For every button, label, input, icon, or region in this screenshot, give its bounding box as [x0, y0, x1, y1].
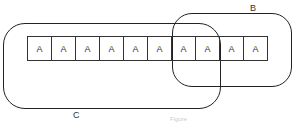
cell: A: [147, 36, 172, 61]
cell: A: [243, 36, 268, 61]
cell-row: A A A A A A A A A A: [27, 36, 268, 61]
cell: A: [51, 36, 76, 61]
figure-caption: Figure: [170, 116, 187, 122]
cell: A: [27, 36, 52, 61]
cell: A: [195, 36, 220, 61]
cell: A: [75, 36, 100, 61]
set-b-label: B: [250, 3, 256, 13]
cell: A: [219, 36, 244, 61]
set-c-label: C: [73, 110, 80, 120]
cell: A: [171, 36, 196, 61]
cell: A: [99, 36, 124, 61]
cell: A: [123, 36, 148, 61]
